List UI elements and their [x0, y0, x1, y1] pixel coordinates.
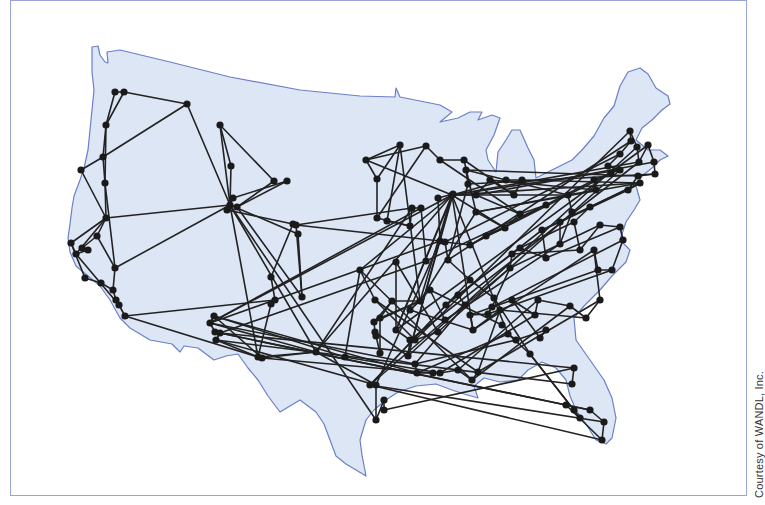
- network-node: [484, 310, 491, 317]
- network-node: [562, 401, 569, 408]
- network-node: [608, 266, 615, 273]
- network-node: [380, 406, 387, 413]
- network-node: [556, 240, 563, 247]
- network-node: [312, 348, 319, 355]
- network-node: [376, 314, 383, 321]
- network-node: [212, 336, 219, 343]
- network-node: [582, 314, 589, 321]
- network-node: [77, 166, 84, 173]
- network-node: [616, 150, 623, 157]
- network-node: [115, 301, 122, 308]
- network-node: [498, 321, 505, 328]
- network-link: [105, 125, 106, 183]
- network-node: [454, 291, 461, 298]
- network-node: [292, 221, 299, 228]
- network-node: [258, 354, 265, 361]
- network-node: [510, 191, 517, 198]
- network-node: [636, 179, 643, 186]
- network-node: [111, 264, 118, 271]
- network-node: [576, 246, 583, 253]
- network-node: [441, 316, 448, 323]
- network-node: [380, 396, 387, 403]
- network-node: [373, 214, 380, 221]
- network-node: [590, 176, 597, 183]
- network-node: [466, 241, 473, 248]
- network-node: [570, 218, 577, 225]
- network-node: [633, 143, 640, 150]
- network-node: [392, 258, 399, 265]
- network-node: [508, 250, 515, 257]
- network-node: [442, 301, 449, 308]
- network-node: [536, 334, 543, 341]
- network-node: [392, 326, 399, 333]
- network-node: [462, 166, 469, 173]
- network-node: [444, 256, 451, 263]
- us-land-outline: [68, 46, 670, 476]
- network-node: [436, 369, 443, 376]
- network-node: [396, 141, 403, 148]
- network-node: [97, 279, 104, 286]
- network-node: [570, 406, 577, 413]
- network-node: [93, 232, 100, 239]
- network-node: [416, 297, 423, 304]
- network-node: [426, 286, 433, 293]
- network-node: [576, 414, 583, 421]
- network-node: [210, 312, 217, 319]
- network-node: [598, 436, 605, 443]
- network-node: [388, 297, 395, 304]
- network-node: [206, 319, 213, 326]
- network-node: [434, 328, 441, 335]
- network-node: [538, 226, 545, 233]
- image-credit: Courtesy of WANDL, Inc.: [753, 371, 765, 498]
- network-node: [227, 162, 234, 169]
- network-node: [408, 204, 415, 211]
- network-node: [635, 158, 642, 165]
- network-node: [460, 156, 467, 163]
- network-node: [376, 349, 383, 356]
- network-node: [429, 369, 436, 376]
- network-node: [596, 296, 603, 303]
- network-node: [283, 177, 290, 184]
- network-node: [634, 172, 641, 179]
- network-node: [526, 350, 533, 357]
- network-node: [436, 156, 443, 163]
- network-node: [341, 353, 348, 360]
- network-node: [616, 223, 623, 230]
- network-node: [356, 266, 363, 273]
- network-node: [600, 418, 607, 425]
- network-node: [464, 180, 471, 187]
- network-node: [99, 153, 106, 160]
- network-node: [590, 246, 597, 253]
- network-node: [294, 230, 301, 237]
- network-node: [616, 166, 623, 173]
- network-node: [371, 296, 378, 303]
- network-node: [72, 250, 79, 257]
- network-node: [406, 306, 413, 313]
- network-node: [373, 175, 380, 182]
- network-node: [496, 306, 503, 313]
- network-node: [109, 286, 116, 293]
- network-node: [101, 179, 108, 186]
- network-node: [474, 368, 481, 375]
- network-node: [372, 381, 379, 388]
- network-node: [78, 244, 85, 251]
- network-node: [461, 301, 468, 308]
- network-node: [504, 330, 511, 337]
- network-node: [516, 210, 523, 217]
- network-node: [216, 121, 223, 128]
- network-node: [564, 191, 571, 198]
- network-node: [624, 186, 631, 193]
- network-node: [372, 332, 379, 339]
- network-node: [372, 416, 379, 423]
- network-node: [67, 239, 74, 246]
- network-node: [121, 312, 128, 319]
- network-node: [592, 186, 599, 193]
- network-node: [488, 303, 495, 310]
- network-node: [111, 88, 118, 95]
- network-node: [472, 191, 479, 198]
- network-node: [468, 376, 475, 383]
- network-node: [466, 276, 473, 283]
- network-node: [102, 121, 109, 128]
- network-node: [619, 236, 626, 243]
- network-node: [518, 176, 525, 183]
